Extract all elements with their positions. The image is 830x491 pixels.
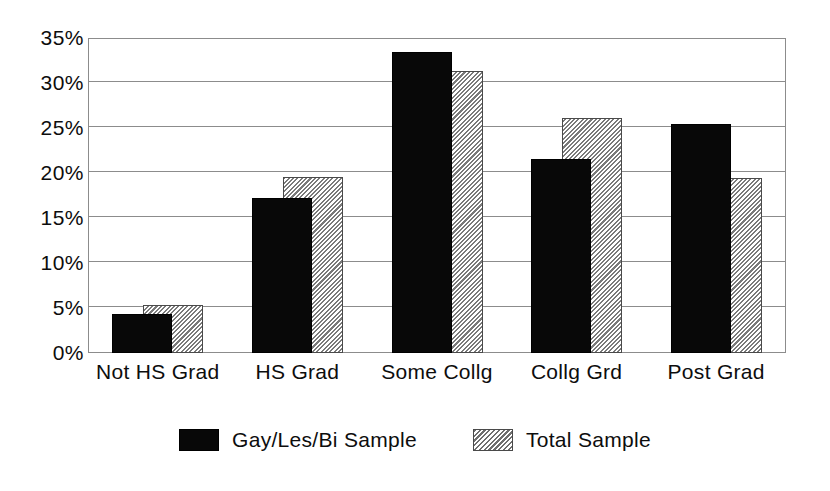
legend-label: Total Sample — [526, 428, 651, 452]
legend-label: Gay/Les/Bi Sample — [232, 428, 417, 452]
gridline-10% — [89, 261, 785, 262]
legend-item: Gay/Les/Bi Sample — [179, 428, 417, 452]
bar-chart: 0%5%10%15%20%25%30%35% Not HS GradHS Gra… — [0, 0, 830, 491]
x-tick-label: HS Grad — [228, 360, 368, 384]
y-tick-label: 0% — [8, 342, 84, 363]
y-axis: 0%5%10%15%20%25%30%35% — [0, 0, 84, 491]
hatched-swatch — [473, 429, 513, 451]
y-tick-label: 25% — [8, 117, 84, 138]
gridline-25% — [89, 126, 785, 127]
chart-legend: Gay/Les/Bi SampleTotal Sample — [0, 428, 830, 452]
y-tick-label: 30% — [8, 72, 84, 93]
x-tick-label: Some Collg — [367, 360, 507, 384]
plot-area — [88, 38, 786, 353]
gridline-20% — [89, 171, 785, 172]
gridline-15% — [89, 216, 785, 217]
legend-item: Total Sample — [473, 428, 651, 452]
y-tick-label: 35% — [8, 27, 84, 48]
y-tick-label: 10% — [8, 252, 84, 273]
x-tick-label: Not HS Grad — [88, 360, 228, 384]
y-tick-label: 5% — [8, 297, 84, 318]
gridline-5% — [89, 306, 785, 307]
x-tick-label: Collg Grd — [507, 360, 647, 384]
solid-black-swatch — [179, 429, 219, 451]
x-tick-label: Post Grad — [646, 360, 786, 384]
y-tick-label: 20% — [8, 162, 84, 183]
y-tick-label: 15% — [8, 207, 84, 228]
gridline-30% — [89, 81, 785, 82]
